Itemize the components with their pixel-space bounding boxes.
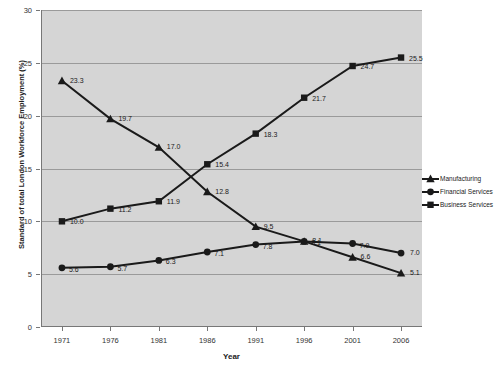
data-point-marker: [204, 249, 211, 256]
series-business-services: [59, 54, 404, 224]
data-point-marker: [252, 241, 259, 248]
data-point-label: 21.7: [312, 95, 326, 102]
data-point-label: 10.0: [70, 218, 84, 225]
chart-legend: ManufacturingFinancial ServicesBusiness …: [422, 172, 503, 211]
data-point-label: 15.4: [215, 161, 229, 168]
legend-item-business-services[interactable]: Business Services: [422, 198, 503, 211]
data-point-label: 7.9: [360, 242, 370, 249]
y-tick-label: 30: [4, 6, 32, 15]
data-point-label: 7.0: [410, 249, 420, 256]
data-point-label: 5.7: [117, 265, 127, 272]
data-point-label: 8.1: [311, 239, 321, 246]
data-point-label: 24.7: [361, 63, 375, 70]
y-tick-label: 5: [4, 270, 32, 279]
data-point-label: 11.9: [167, 198, 180, 205]
legend-item-label: Manufacturing: [439, 175, 481, 182]
legend-item-manufacturing[interactable]: Manufacturing: [422, 172, 503, 185]
x-axis-title: Year: [41, 352, 422, 361]
data-point-marker: [398, 54, 404, 60]
y-tick-mark: [36, 63, 40, 64]
data-point-label: 9.5: [264, 223, 274, 230]
x-tick-mark: [304, 327, 305, 331]
y-axis-title: Standard of total London Workforce Emplo…: [17, 40, 26, 270]
x-tick-label: 1971: [42, 336, 82, 345]
data-point-marker: [107, 205, 113, 211]
legend-item-label: Business Services: [439, 201, 493, 208]
data-point-marker: [301, 238, 308, 245]
legend-marker-icon: [422, 186, 439, 197]
x-tick-mark: [353, 327, 354, 331]
data-point-marker: [107, 263, 114, 270]
data-point-label: 6.6: [361, 253, 371, 260]
data-point-label: 11.2: [118, 206, 131, 213]
x-tick-label: 1996: [284, 336, 324, 345]
data-point-marker: [59, 264, 66, 271]
data-point-label: 7.8: [263, 243, 273, 250]
data-point-label: 5.6: [69, 266, 79, 273]
x-tick-label: 1976: [90, 336, 130, 345]
data-point-label: 7.1: [214, 250, 224, 257]
data-point-marker: [204, 161, 210, 167]
x-tick-mark: [401, 327, 402, 331]
x-tick-label: 1991: [236, 336, 276, 345]
legend-marker-icon: [422, 173, 439, 184]
x-tick-mark: [62, 327, 63, 331]
x-tick-label: 1986: [187, 336, 227, 345]
x-tick-mark: [207, 327, 208, 331]
y-tick-mark: [36, 327, 40, 328]
data-point-marker: [59, 218, 65, 224]
data-point-marker: [301, 95, 307, 101]
data-point-label: 23.3: [70, 77, 84, 84]
x-tick-mark: [256, 327, 257, 331]
data-point-label: 19.7: [118, 115, 132, 122]
y-tick-mark: [36, 169, 40, 170]
x-tick-label: 2001: [333, 336, 373, 345]
series-line: [62, 58, 401, 222]
data-point-marker: [155, 143, 163, 151]
x-tick-mark: [110, 327, 111, 331]
x-tick-label: 2006: [381, 336, 421, 345]
data-point-marker: [156, 198, 162, 204]
data-point-marker: [58, 77, 66, 85]
data-point-marker: [155, 257, 162, 264]
y-tick-mark: [36, 221, 40, 222]
y-tick-mark: [36, 116, 40, 117]
series-layer: [41, 10, 422, 327]
data-point-label: 17.0: [167, 143, 181, 150]
legend-item-financial-services[interactable]: Financial Services: [422, 185, 503, 198]
x-tick-mark: [159, 327, 160, 331]
data-point-label: 25.5: [409, 55, 423, 62]
data-point-label: 5.1: [410, 269, 420, 276]
data-point-marker: [253, 130, 259, 136]
legend-item-label: Financial Services: [439, 188, 493, 195]
data-point-marker: [349, 63, 355, 69]
data-point-marker: [349, 240, 356, 247]
data-point-label: 6.3: [166, 258, 176, 265]
data-point-label: 12.8: [215, 188, 229, 195]
legend-marker-icon: [422, 199, 439, 210]
y-tick-label: 0: [4, 323, 32, 332]
chart-root: 051015202530 197119761981198619911996200…: [0, 0, 503, 375]
y-tick-mark: [36, 274, 40, 275]
data-point-label: 18.3: [264, 131, 278, 138]
data-point-marker: [398, 250, 405, 257]
x-tick-label: 1981: [139, 336, 179, 345]
y-tick-mark: [36, 10, 40, 11]
